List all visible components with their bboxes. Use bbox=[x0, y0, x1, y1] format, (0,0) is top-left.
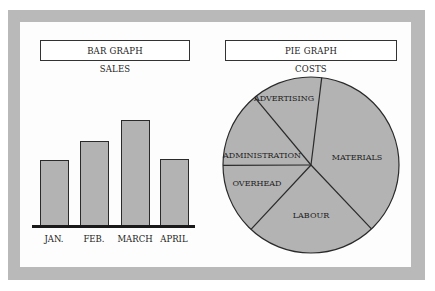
slice-label-advertising: ADVERTISING bbox=[253, 94, 314, 103]
slice-label-labour: LABOUR bbox=[293, 211, 330, 220]
slice-label-administration: ADMINISTRATION bbox=[222, 151, 301, 160]
pie-chart: MATERIALSLABOUROVERHEADADMINISTRATIONADV… bbox=[0, 0, 435, 291]
slice-label-materials: MATERIALS bbox=[332, 153, 382, 162]
slice-label-overhead: OVERHEAD bbox=[232, 179, 281, 188]
